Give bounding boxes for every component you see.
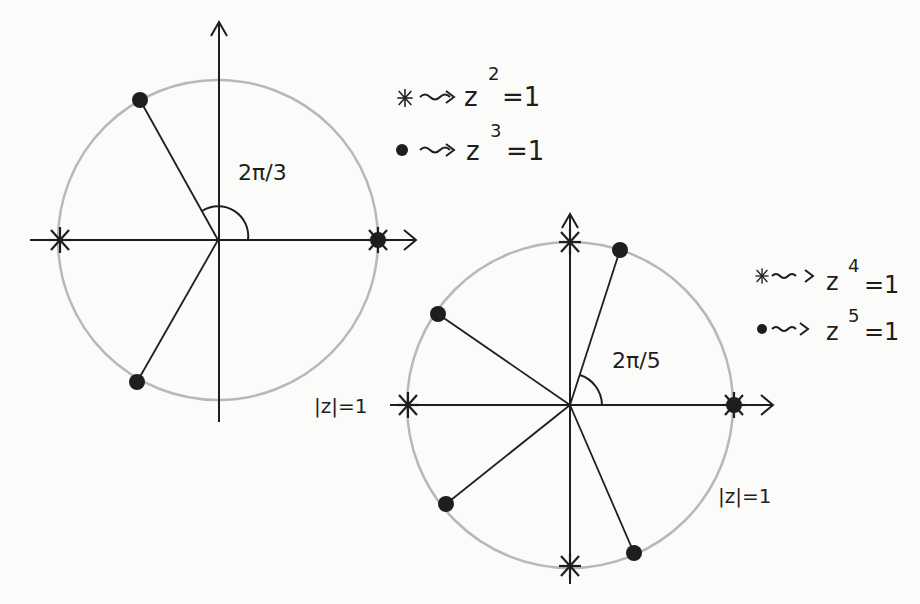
cube-root-dot [129, 374, 145, 390]
fourth-root-star-icon [723, 392, 745, 418]
svg-text:=1: =1 [502, 82, 540, 112]
svg-text:5: 5 [848, 305, 859, 326]
fifth-root-dot [612, 242, 628, 258]
right-diagram: 2π/5 z 4 =1 z 5 =1 [390, 214, 899, 584]
unit-circle-label-right: |z|=1 [718, 484, 771, 508]
angle-label-left: 2π/3 [238, 160, 287, 185]
fourth-root-star-icon [559, 553, 581, 579]
fifth-root-dot [438, 496, 454, 512]
left-diagram: 2π/3 z 2 =1 z 3 =1 [30, 22, 544, 422]
radius-216 [446, 405, 570, 504]
star-icon [397, 89, 412, 107]
svg-text:z: z [464, 82, 478, 112]
angle-arc-right [580, 375, 602, 405]
diagram-canvas: 2π/3 z 2 =1 z 3 =1 [0, 0, 920, 604]
legend-right: z 4 =1 z 5 =1 [755, 255, 899, 346]
fifth-root-dot [626, 545, 642, 561]
square-root-star-icon [49, 227, 71, 253]
fourth-root-star-icon [559, 229, 581, 255]
svg-text:2: 2 [488, 63, 499, 84]
angle-label-right: 2π/5 [612, 348, 661, 373]
star-icon [755, 268, 768, 284]
fourth-root-star-icon [397, 392, 419, 418]
dot-icon [757, 324, 767, 334]
radius-240 [137, 240, 218, 382]
radius-120 [140, 100, 218, 240]
roots-of-unity-diagram: 2π/3 z 2 =1 z 3 =1 [0, 0, 920, 604]
radius-72 [570, 250, 620, 405]
radius-144 [438, 314, 570, 405]
unit-circle-label-left: |z|=1 [314, 394, 367, 418]
svg-text:z: z [466, 136, 480, 166]
svg-text:=1: =1 [506, 136, 544, 166]
svg-text:z: z [826, 318, 839, 346]
svg-text:=1: =1 [864, 318, 899, 346]
radius-288 [570, 405, 634, 553]
fifth-root-dot [430, 306, 446, 322]
svg-text:4: 4 [848, 255, 859, 276]
cube-root-dot [132, 92, 148, 108]
dot-icon [396, 144, 408, 156]
svg-text:3: 3 [490, 120, 501, 141]
svg-text:=1: =1 [864, 271, 899, 299]
square-root-star-icon [367, 227, 389, 253]
legend-left: z 2 =1 z 3 =1 [396, 63, 544, 166]
svg-text:z: z [826, 268, 839, 296]
